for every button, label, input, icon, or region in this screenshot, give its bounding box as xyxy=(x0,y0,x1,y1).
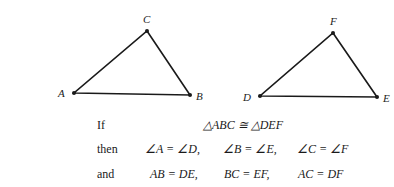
vertex-c-point xyxy=(145,29,149,33)
vertex-a-point xyxy=(72,91,76,95)
vertex-b-point xyxy=(188,93,192,97)
side-equality-ab-de: AB = DE, xyxy=(150,167,198,182)
congruent-triangles-figure: A B C D E F xyxy=(0,0,394,110)
vertex-a-label: A xyxy=(57,87,65,99)
triangle-abc-outline xyxy=(74,31,190,95)
triangle-abc xyxy=(74,31,190,95)
vertex-b-label: B xyxy=(196,90,203,102)
vertex-f-label: F xyxy=(329,15,337,27)
if-keyword: If xyxy=(97,118,105,133)
then-keyword: then xyxy=(97,142,118,157)
angle-equality-b-e: ∠B = ∠E, xyxy=(223,142,277,157)
side-equality-bc-ef: BC = EF, xyxy=(224,167,270,182)
congruence-expression: △ABC ≅ △DEF xyxy=(203,118,283,133)
triangle-def-outline xyxy=(260,33,377,97)
angle-equality-c-f: ∠C = ∠F xyxy=(297,142,348,157)
vertex-d-point xyxy=(258,94,262,98)
vertex-f-point xyxy=(331,31,335,35)
and-keyword: and xyxy=(97,167,114,182)
triangle-def xyxy=(260,33,377,97)
vertex-d-label: D xyxy=(242,91,251,103)
angle-equality-a-d: ∠A = ∠D, xyxy=(145,142,200,157)
vertex-c-label: C xyxy=(143,13,151,25)
vertex-e-label: E xyxy=(382,92,390,104)
side-equality-ac-df: AC = DF xyxy=(298,167,343,182)
vertex-e-point xyxy=(375,95,379,99)
